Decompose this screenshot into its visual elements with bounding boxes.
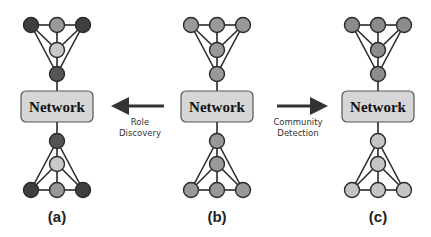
node-icon	[345, 18, 360, 33]
node-icon	[236, 183, 251, 198]
node-icon	[50, 18, 65, 33]
node-icon	[371, 67, 386, 82]
bottom-subgraph	[184, 122, 251, 198]
network-figure: Network(a)Network(b)Network(c) Role Disc…	[0, 0, 431, 237]
panel-c: Network(c)	[342, 18, 414, 226]
node-icon	[24, 18, 39, 33]
node-icon	[184, 18, 199, 33]
top-subgraph	[345, 18, 412, 92]
community-detection-arrow: Community Detection	[273, 106, 322, 138]
node-icon	[210, 183, 225, 198]
node-icon	[236, 18, 251, 33]
node-icon	[50, 157, 65, 172]
node-icon	[50, 67, 65, 82]
node-icon	[210, 157, 225, 172]
node-icon	[210, 43, 225, 58]
role-label: Role	[131, 117, 149, 127]
node-icon	[210, 67, 225, 82]
panel-label: (a)	[48, 208, 66, 225]
node-icon	[210, 134, 225, 149]
detection-label: Detection	[277, 128, 318, 138]
network-label: Network	[350, 99, 406, 115]
node-icon	[24, 183, 39, 198]
panel-a: Network(a)	[21, 18, 93, 226]
top-subgraph	[24, 18, 91, 92]
role-discovery-arrow: Role Discovery	[119, 106, 164, 138]
node-icon	[50, 183, 65, 198]
node-icon	[184, 183, 199, 198]
node-icon	[397, 18, 412, 33]
node-icon	[345, 183, 360, 198]
panel-b: Network(b)	[181, 18, 253, 226]
node-icon	[371, 157, 386, 172]
node-icon	[397, 183, 412, 198]
top-subgraph	[184, 18, 251, 92]
node-icon	[76, 183, 91, 198]
community-label: Community	[273, 117, 322, 127]
bottom-subgraph	[24, 122, 91, 198]
bottom-subgraph	[345, 122, 412, 198]
panel-label: (c)	[369, 208, 387, 225]
panel-label: (b)	[207, 208, 226, 225]
node-icon	[76, 18, 91, 33]
discovery-label: Discovery	[119, 128, 161, 138]
node-icon	[371, 183, 386, 198]
node-icon	[371, 43, 386, 58]
node-icon	[371, 18, 386, 33]
node-icon	[371, 134, 386, 149]
node-icon	[50, 43, 65, 58]
network-label: Network	[29, 99, 85, 115]
node-icon	[210, 18, 225, 33]
network-label: Network	[189, 99, 245, 115]
node-icon	[50, 134, 65, 149]
